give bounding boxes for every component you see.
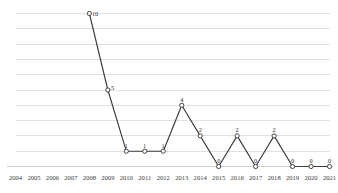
data-point-label: 10 [92,10,98,17]
x-axis-tick-label: 2020 [304,174,318,181]
x-axis-tick-label: 2004 [9,174,23,181]
data-point-label: 1 [125,142,128,149]
data-point-label: 5 [111,84,114,91]
data-point-marker [124,149,128,153]
x-axis-tick-label: 2013 [175,174,189,181]
data-point-marker [254,164,258,168]
x-axis-tick-label: 2015 [212,174,226,181]
x-axis-tick-label: 2018 [267,174,281,181]
chart-plot-area: 105111420202000 200420052006200720082009… [0,0,338,193]
x-axis-tick-label: 2019 [286,174,300,181]
line-chart: 105111420202000 200420052006200720082009… [0,0,338,193]
data-point-label: 1 [143,142,146,149]
data-point-marker [235,134,239,138]
x-axis-tick-label: 2010 [120,174,134,181]
data-point-marker [327,164,331,168]
x-axis-tick-label: 2005 [27,174,41,181]
data-point-label: 2 [199,126,202,133]
data-point-label: 0 [217,157,220,164]
data-point-label: 1 [162,142,165,149]
data-point-label: 2 [273,126,276,133]
x-axis-tick-label: 2009 [101,174,115,181]
x-axis-tick-label: 2017 [249,174,263,181]
x-axis-tick-label: 2008 [83,174,97,181]
data-point-marker [290,164,294,168]
x-axis-tick-label: 2021 [323,174,336,181]
x-axis-tick-label: 2016 [231,174,245,181]
data-point-marker [272,134,276,138]
data-point-marker [87,11,91,15]
x-axis-tick-label: 2006 [46,174,60,181]
x-axis-tick-label: 2007 [64,174,78,181]
data-point-marker [309,164,313,168]
data-point-marker [106,88,110,92]
x-axis-tick-label: 2011 [138,174,151,181]
data-point-label: 2 [236,126,239,133]
gridlines [16,14,330,152]
data-point-marker [217,164,221,168]
x-axis-tick-labels: 2004200520062007200820092010201120122013… [9,174,336,181]
data-point-label: 0 [309,157,312,164]
data-point-label: 0 [291,157,294,164]
data-point-marker [161,149,165,153]
data-point-marker [198,134,202,138]
data-point-marker [143,149,147,153]
data-point-label: 0 [254,157,257,164]
data-point-labels: 105111420202000 [92,10,331,164]
x-axis-tick-label: 2012 [157,174,170,181]
x-axis-tick-label: 2014 [194,174,208,181]
data-point-marker [180,103,184,107]
data-point-label: 4 [180,96,183,103]
data-point-label: 0 [328,157,331,164]
